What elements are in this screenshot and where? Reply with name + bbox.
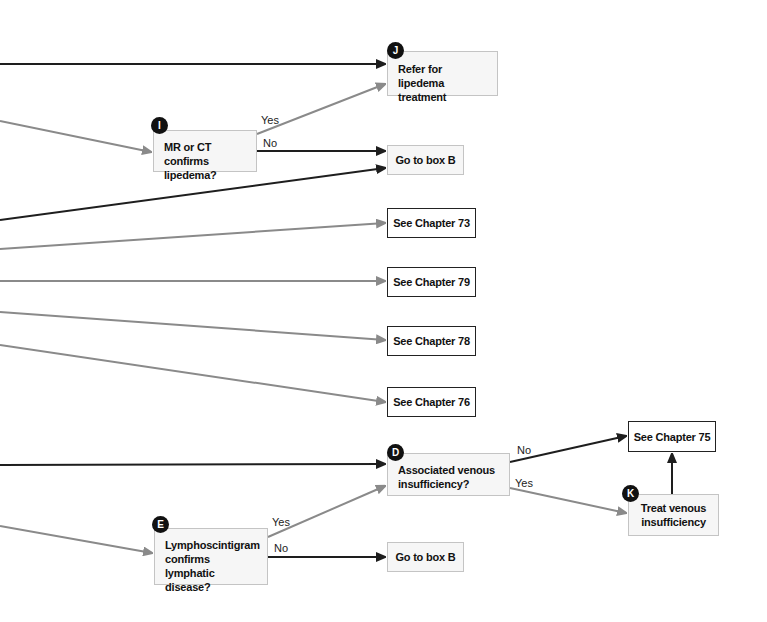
arrow-to-ch73 xyxy=(0,223,385,249)
arrow-I-yes-to-J xyxy=(257,84,385,134)
node-text: Treat venous insufficiency xyxy=(629,501,718,529)
edge-label-I-no: No xyxy=(263,137,277,149)
node-text: Lymphoscintigram confirms lymphatic dise… xyxy=(165,539,260,593)
arrow-to-I xyxy=(0,121,151,152)
node-text: See Chapter 75 xyxy=(634,430,711,444)
node-text: MR or CT confirms lipedema? xyxy=(164,141,217,181)
arrow-to-D xyxy=(0,464,385,465)
node-see-chapter-78: See Chapter 78 xyxy=(387,326,476,356)
node-text: See Chapter 79 xyxy=(393,275,470,289)
node-go-to-box-b-bottom: Go to box B xyxy=(387,542,464,572)
node-text: See Chapter 73 xyxy=(393,216,470,230)
node-associated-venous-insufficiency: Associated venous insufficiency? xyxy=(387,453,510,496)
node-see-chapter-73: See Chapter 73 xyxy=(387,208,476,238)
node-lymphoscintigram-confirms-lymphatic-disease: Lymphoscintigram confirms lymphatic dise… xyxy=(154,528,268,585)
edge-label-E-yes: Yes xyxy=(272,516,290,528)
node-see-chapter-75: See Chapter 75 xyxy=(628,421,716,452)
badge-K: K xyxy=(622,485,639,502)
badge-E: E xyxy=(152,516,169,533)
edge-label-D-no: No xyxy=(517,444,531,456)
node-text: Refer for lipedema treatment xyxy=(398,63,446,103)
node-text: Go to box B xyxy=(395,153,455,167)
edge-label-E-no: No xyxy=(274,542,288,554)
node-text: See Chapter 76 xyxy=(393,395,470,409)
badge-D: D xyxy=(387,444,404,461)
badge-J: J xyxy=(387,42,404,59)
arrow-E-yes-to-D xyxy=(268,486,385,537)
node-go-to-box-b-top: Go to box B xyxy=(387,145,464,175)
arrow-to-ch78 xyxy=(0,312,385,340)
node-text: Associated venous insufficiency? xyxy=(398,464,495,490)
node-treat-venous-insufficiency: Treat venous insufficiency xyxy=(628,494,719,536)
edge-label-I-yes: Yes xyxy=(261,114,279,126)
node-see-chapter-76: See Chapter 76 xyxy=(387,387,476,417)
badge-I: I xyxy=(151,117,168,134)
node-see-chapter-79: See Chapter 79 xyxy=(387,267,476,297)
arrow-D-yes-to-K xyxy=(510,488,626,513)
node-refer-lipedema-treatment: Refer for lipedema treatment xyxy=(387,51,498,96)
node-text: See Chapter 78 xyxy=(393,334,470,348)
arrow-to-E xyxy=(0,526,152,553)
node-mr-ct-confirms-lipedema: MR or CT confirms lipedema? xyxy=(153,130,257,172)
arrow-to-ch76 xyxy=(0,345,385,402)
node-text: Go to box B xyxy=(395,550,455,564)
edge-label-D-yes: Yes xyxy=(515,477,533,489)
